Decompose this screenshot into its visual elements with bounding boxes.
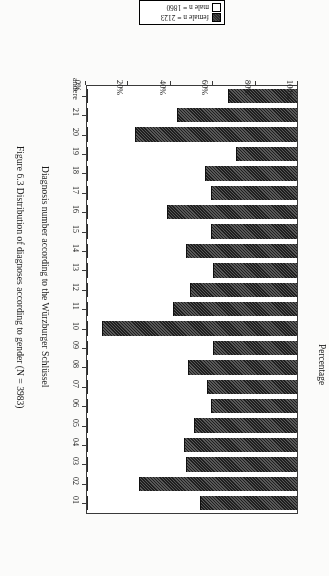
value-tick — [297, 81, 298, 85]
bar-segment-male — [87, 108, 177, 122]
bar-row — [87, 166, 297, 180]
bar-row — [87, 302, 297, 316]
value-tick — [212, 81, 213, 85]
category-tick — [82, 484, 86, 485]
category-tick — [82, 464, 86, 465]
bar-segment-male — [87, 438, 184, 452]
bar-segment-female — [167, 205, 297, 219]
bar-row — [87, 127, 297, 141]
bar-segment-male — [87, 147, 236, 161]
bar-row — [87, 147, 297, 161]
legend-swatch-female-icon — [212, 13, 221, 22]
bar-segment-male — [87, 477, 140, 491]
bar-row — [87, 283, 297, 297]
category-tick — [82, 290, 86, 291]
bar-segment-male — [87, 418, 194, 432]
bar-segment-female — [200, 496, 297, 510]
category-tick — [82, 270, 86, 271]
bar-segment-male — [87, 186, 211, 200]
category-tick — [82, 329, 86, 330]
chart-legend: female n = 2123 male n = 1860 — [139, 0, 225, 25]
legend-entry-male: male n = 1860 — [143, 3, 221, 12]
bar-row — [87, 457, 297, 471]
category-tick-label: 01 — [71, 496, 80, 504]
legend-entry-female: female n = 2123 — [143, 13, 221, 22]
bar-segment-male — [87, 127, 135, 141]
category-tick-label: 15 — [71, 225, 80, 233]
category-tick — [82, 367, 86, 368]
category-tick-label: 17 — [71, 186, 80, 194]
category-tick — [82, 212, 86, 213]
category-tick-label: 16 — [71, 205, 80, 213]
category-tick-label: 21 — [71, 108, 80, 116]
bar-segment-female — [173, 302, 297, 316]
bar-row — [87, 108, 297, 122]
bar-segment-female — [188, 360, 297, 374]
category-tick-label: 07 — [71, 380, 80, 388]
legend-label-female: female n = 2123 — [161, 14, 209, 22]
bar-row — [87, 321, 297, 335]
category-tick-label: 04 — [71, 438, 80, 446]
bar-series-container — [87, 86, 297, 513]
bar-segment-female — [236, 147, 297, 161]
category-tick-label: 14 — [71, 244, 80, 252]
figure-caption: Figure 6.3 Distribution of diagnoses acc… — [15, 146, 26, 409]
category-tick — [82, 348, 86, 349]
category-tick — [82, 426, 86, 427]
bar-row — [87, 496, 297, 510]
bar-segment-male — [87, 341, 213, 355]
value-tick — [127, 81, 128, 85]
category-tick — [82, 445, 86, 446]
category-tick-label: 02 — [71, 477, 80, 485]
category-tick — [82, 115, 86, 116]
bar-row — [87, 380, 297, 394]
bar-segment-male — [87, 321, 102, 335]
bar-segment-female — [211, 399, 297, 413]
bar-segment-male — [87, 302, 173, 316]
bar-segment-male — [87, 457, 186, 471]
plot-area — [86, 85, 298, 514]
category-tick-label: 12 — [71, 283, 80, 291]
value-tick — [255, 81, 256, 85]
bar-row — [87, 205, 297, 219]
category-tick-label: andere — [71, 78, 80, 100]
bar-segment-female — [205, 166, 297, 180]
category-tick-label: 20 — [71, 128, 80, 136]
category-tick — [82, 173, 86, 174]
bar-row — [87, 399, 297, 413]
category-tick-label: 10 — [71, 322, 80, 330]
value-tick-label: 80% — [243, 80, 252, 95]
category-tick-label: 05 — [71, 419, 80, 427]
legend-swatch-male-icon — [212, 3, 221, 12]
category-tick — [82, 406, 86, 407]
bar-row — [87, 263, 297, 277]
bar-segment-female — [186, 244, 297, 258]
category-tick — [82, 503, 86, 504]
bar-segment-female — [102, 321, 297, 335]
bar-row — [87, 418, 297, 432]
bar-segment-female — [211, 186, 297, 200]
bar-segment-female — [190, 283, 297, 297]
category-tick-label: 09 — [71, 341, 80, 349]
legend-label-male: male n = 1860 — [166, 4, 209, 12]
bar-segment-male — [87, 205, 167, 219]
value-tick-label: 60% — [200, 80, 209, 95]
bar-segment-male — [87, 496, 200, 510]
bar-row — [87, 360, 297, 374]
bar-segment-female — [135, 127, 297, 141]
bar-row — [87, 224, 297, 238]
category-tick — [82, 154, 86, 155]
category-tick-label: 03 — [71, 457, 80, 465]
bar-segment-female — [194, 418, 297, 432]
bar-segment-male — [87, 224, 211, 238]
bar-row — [87, 477, 297, 491]
bar-segment-female — [211, 224, 297, 238]
category-tick — [82, 309, 86, 310]
bar-segment-female — [213, 263, 297, 277]
bar-row — [87, 341, 297, 355]
bar-segment-male — [87, 399, 211, 413]
bar-row — [87, 186, 297, 200]
value-tick — [85, 81, 86, 85]
bar-row — [87, 244, 297, 258]
category-tick-label: 13 — [71, 263, 80, 271]
